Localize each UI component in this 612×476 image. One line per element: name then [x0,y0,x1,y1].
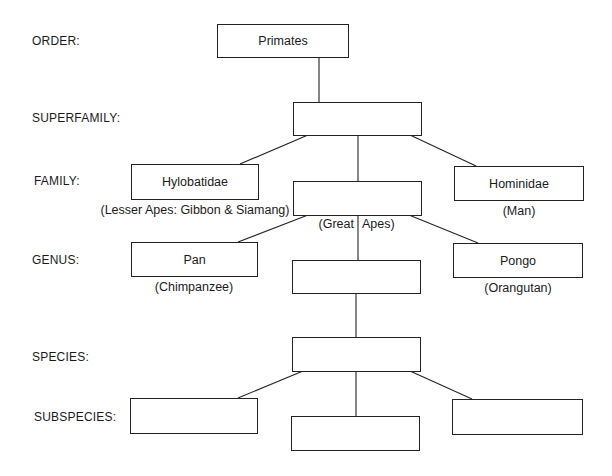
caption-great-apes-left: (Great [312,217,354,231]
node-label: Hylobatidae [162,175,228,189]
rank-label-species: SPECIES: [32,350,89,364]
caption-great-apes-right: Apes) [362,217,404,231]
node-hominidae: Hominidae [454,166,584,201]
node-superfamily-blank [293,102,422,136]
node-hylobatidae: Hylobatidae [131,164,259,200]
node-primates: Primates [217,24,349,58]
node-pongo: Pongo [453,243,583,278]
rank-label-superfamily: SUPERFAMILY: [32,111,120,125]
rank-label-subspecies: SUBSPECIES: [34,410,116,424]
node-species-blank [292,337,421,372]
node-label: Primates [258,34,307,48]
node-subspecies-right-blank [452,399,583,435]
caption-pan: (Chimpanzee) [144,280,244,294]
node-genus-blank [292,260,421,294]
node-label: Pongo [500,254,536,268]
caption-pongo: (Orangutan) [468,281,568,295]
caption-hominidae: (Man) [469,204,569,218]
node-subspecies-left-blank [130,398,258,434]
rank-label-family: FAMILY: [34,174,80,188]
rank-label-genus: GENUS: [32,253,79,267]
node-label: Hominidae [489,177,549,191]
node-pan: Pan [131,242,258,277]
node-label: Pan [183,253,205,267]
node-great-apes-family [293,181,422,216]
rank-label-order: ORDER: [32,34,80,48]
node-subspecies-middle-blank [291,416,420,451]
caption-hylobatidae: (Lesser Apes: Gibbon & Siamang) [95,203,295,217]
